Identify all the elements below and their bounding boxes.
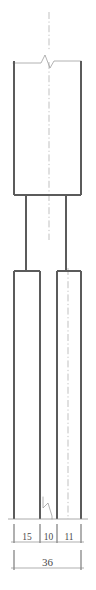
lower-break-symbol (43, 497, 52, 519)
dimension-label-total-36: 36 (42, 556, 54, 568)
dimension-label-15: 15 (22, 532, 32, 542)
upper-break-symbol (13, 55, 81, 68)
dimension-label-10: 10 (44, 532, 54, 542)
dimension-label-11: 11 (64, 532, 73, 542)
elevation-view-drawing: 15 10 11 36 (0, 0, 96, 590)
cad-drawing-canvas: 15 10 11 36 (0, 0, 96, 590)
